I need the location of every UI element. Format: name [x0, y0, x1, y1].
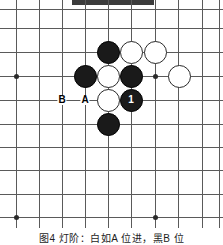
grid-line-horizontal — [0, 217, 223, 218]
stone-white[interactable] — [120, 41, 143, 64]
go-board[interactable]: 1BA — [0, 0, 223, 228]
grid-line-horizontal — [0, 28, 223, 29]
hoshi-star-point — [153, 215, 158, 220]
stone-move-number: 1 — [128, 95, 134, 105]
hoshi-star-point — [14, 74, 19, 79]
hoshi-star-point — [153, 74, 158, 79]
point-label-a: A — [80, 95, 89, 105]
stone-white[interactable] — [144, 41, 167, 64]
stone-white[interactable] — [97, 65, 120, 88]
stone-white[interactable] — [168, 65, 191, 88]
stone-black[interactable] — [97, 113, 120, 136]
grid-line-horizontal — [0, 9, 223, 10]
stone-black[interactable] — [120, 65, 143, 88]
stone-black-move-1[interactable]: 1 — [120, 89, 143, 112]
grid-line-horizontal — [0, 194, 223, 195]
figure-caption: 图4 灯阶：白如A 位进，黑B 位 — [0, 230, 223, 245]
stone-black[interactable] — [97, 41, 120, 64]
hoshi-star-point — [14, 215, 19, 220]
grid-line-horizontal — [0, 147, 223, 148]
stone-white[interactable] — [97, 89, 120, 112]
stone-black[interactable] — [74, 65, 97, 88]
grid-line-horizontal — [0, 170, 223, 171]
point-label-b: B — [57, 95, 66, 105]
